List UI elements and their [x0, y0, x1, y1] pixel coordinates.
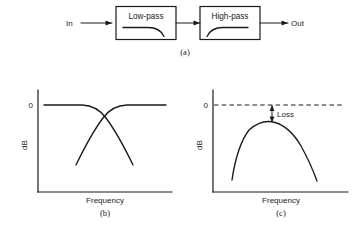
panel-b-chart: 0 dB Frequency (b) — [20, 90, 172, 218]
panel-c-chart: 0 dB Loss Frequency (c) — [195, 90, 348, 218]
caption-c: (c) — [276, 208, 286, 218]
panel-b-lowpass-curve — [44, 105, 133, 165]
input-arrow — [81, 20, 112, 25]
output-label: Out — [291, 19, 305, 28]
panel-b-highpass-curve — [76, 105, 166, 165]
caption-a: (a) — [180, 47, 190, 57]
block-high-pass-label: High-pass — [212, 12, 249, 21]
panel-b-x-axis-label: Frequency — [86, 196, 124, 205]
lowpass-response-curve-icon — [123, 28, 164, 37]
panel-c-bandpass-curve — [232, 121, 317, 181]
figure-root: In Low-pass High-pass — [0, 0, 360, 231]
panel-a-block-diagram: In Low-pass High-pass — [66, 7, 305, 58]
caption-b: (b) — [100, 208, 110, 218]
input-label: In — [66, 19, 73, 28]
output-arrow — [260, 20, 288, 25]
panel-b-ytick-zero: 0 — [29, 101, 34, 110]
panel-b-y-axis-label: dB — [20, 140, 29, 150]
loss-label: Loss — [277, 110, 294, 119]
block-low-pass: Low-pass — [116, 7, 176, 40]
panel-c-y-axis-label: dB — [195, 140, 204, 150]
panel-c-ytick-zero: 0 — [204, 101, 209, 110]
highpass-response-curve-icon — [207, 28, 248, 37]
loss-arrow — [270, 105, 275, 123]
block-low-pass-label: Low-pass — [128, 12, 163, 21]
interconnect-arrow — [176, 20, 200, 25]
panel-c-x-axis-label: Frequency — [262, 196, 300, 205]
block-high-pass: High-pass — [200, 7, 260, 40]
